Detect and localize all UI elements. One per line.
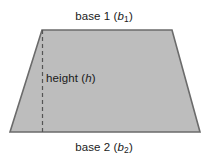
base-1-label-suffix: ) bbox=[129, 10, 133, 22]
height-label-suffix: ) bbox=[92, 72, 96, 84]
base-2-subscript: 2 bbox=[124, 145, 129, 155]
base-2-label: base 2 (b2) bbox=[0, 140, 208, 155]
base-1-label: base 1 (b1) bbox=[0, 9, 208, 24]
base-1-subscript: 1 bbox=[124, 14, 129, 24]
trapezoid-shape bbox=[10, 30, 200, 132]
base-2-label-prefix: base 2 ( bbox=[75, 141, 117, 153]
height-label-prefix: height ( bbox=[46, 72, 85, 84]
trapezoid-figure bbox=[0, 0, 208, 162]
trapezoid-diagram: base 1 (b1) height (h) base 2 (b2) bbox=[0, 0, 208, 162]
base-2-label-suffix: ) bbox=[129, 141, 133, 153]
base-1-label-prefix: base 1 ( bbox=[75, 10, 117, 22]
height-label: height (h) bbox=[46, 71, 96, 85]
